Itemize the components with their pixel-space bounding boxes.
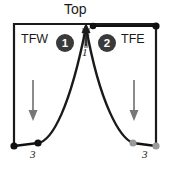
connector-right-endpoint bbox=[152, 22, 159, 29]
left-baseline-start-point bbox=[10, 142, 17, 149]
left-baseline-number-label: 3 bbox=[30, 148, 36, 160]
left-down-arrow bbox=[29, 80, 38, 121]
right-baseline-start-point bbox=[129, 139, 136, 146]
diagram-svg bbox=[0, 0, 170, 169]
step-badge-1: 1 bbox=[56, 34, 74, 52]
left-baseline-end-point bbox=[34, 139, 41, 146]
top-label: Top bbox=[64, 2, 87, 16]
right-down-arrow bbox=[130, 80, 139, 121]
region-label-tfe: TFE bbox=[121, 33, 145, 46]
right-baseline-number-label: 3 bbox=[142, 148, 148, 160]
diagram-canvas: Top TFW TFE 1 2 1 3 3 bbox=[0, 0, 170, 169]
apex-number-label: 1 bbox=[82, 46, 88, 58]
connector-left-endpoint bbox=[90, 23, 97, 30]
region-label-tfw: TFW bbox=[21, 33, 48, 46]
right-baseline-end-point bbox=[152, 142, 159, 149]
step-badge-2: 2 bbox=[98, 34, 116, 52]
